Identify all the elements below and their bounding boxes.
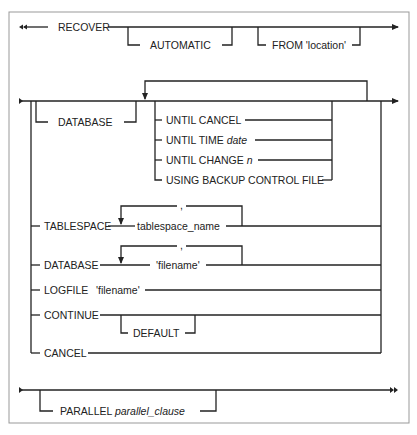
clause-parallel: PARALLEL parallel_clause — [60, 405, 185, 417]
separator-comma: , — [180, 239, 183, 251]
option-using-backup: USING BACKUP CONTROL FILE — [166, 174, 324, 186]
keyword-logfile: LOGFILE — [44, 284, 88, 296]
option-default: DEFAULT — [133, 327, 180, 339]
option-until-change: UNTIL CHANGE n — [166, 154, 253, 166]
diagram-frame — [9, 12, 409, 423]
keyword-tablespace: TABLESPACE — [44, 220, 111, 232]
keyword-continue: CONTINUE — [44, 309, 99, 321]
keyword-database-optional: DATABASE — [58, 116, 112, 128]
option-automatic: AUTOMATIC — [150, 39, 211, 51]
param-tablespace-name: tablespace_name — [137, 220, 220, 232]
option-until-cancel: UNTIL CANCEL — [166, 114, 242, 126]
end-double-arrow-icon — [390, 387, 398, 393]
keyword-cancel: CANCEL — [44, 347, 87, 359]
option-until-time: UNTIL TIME date — [166, 134, 247, 146]
param-logfile-filename: 'filename' — [96, 284, 140, 296]
param-filename: 'filename' — [156, 259, 200, 271]
option-from-location: FROM 'location' — [272, 39, 346, 51]
keyword-recover: RECOVER — [58, 21, 110, 33]
syntax-diagram: RECOVER AUTOMATIC FROM 'location' — [0, 0, 417, 435]
keyword-database: DATABASE — [44, 259, 98, 271]
separator-comma: , — [180, 199, 183, 211]
